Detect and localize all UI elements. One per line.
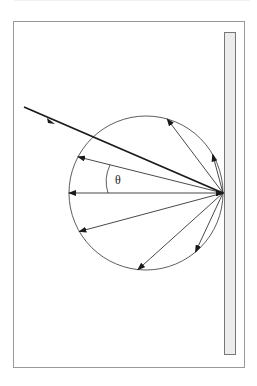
angle-arc bbox=[106, 165, 110, 193]
diffuse-reflection-diagram: θ bbox=[0, 0, 257, 386]
incident-ray bbox=[24, 107, 223, 193]
reflected-ray bbox=[213, 155, 223, 194]
reflected-ray bbox=[195, 193, 223, 252]
theta-label: θ bbox=[115, 173, 121, 187]
reflecting-surface bbox=[225, 33, 236, 355]
figure-frame bbox=[14, 22, 245, 368]
reflected-rays bbox=[69, 119, 223, 270]
